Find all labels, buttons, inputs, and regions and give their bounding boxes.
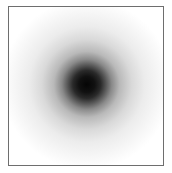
gaussian-blob	[9, 7, 163, 165]
image-frame	[8, 6, 164, 166]
